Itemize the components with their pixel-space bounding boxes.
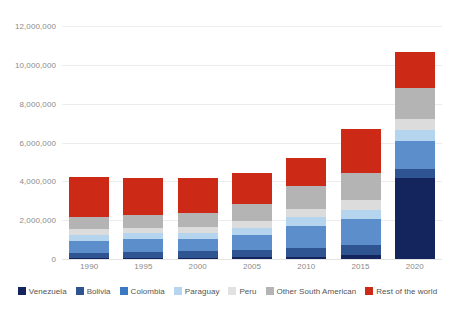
bar-segment[interactable] [69, 217, 109, 230]
bar-segment[interactable] [178, 251, 218, 258]
bar-segment[interactable] [286, 217, 326, 225]
bar-segment[interactable] [395, 178, 435, 259]
legend-swatch-icon [228, 287, 236, 295]
bar-segment[interactable] [395, 130, 435, 140]
gridline [62, 259, 442, 260]
bar-segment[interactable] [69, 177, 109, 217]
bar-segment[interactable] [232, 204, 272, 221]
bar-group[interactable] [116, 26, 170, 259]
legend-item[interactable]: Paraguay [174, 287, 220, 296]
bar-segment[interactable] [395, 141, 435, 169]
bar-segment[interactable] [123, 239, 163, 252]
bar-segment[interactable] [341, 255, 381, 259]
legend-item[interactable]: Other South American [266, 287, 357, 296]
legend-swatch-icon [266, 287, 274, 295]
legend-swatch-icon [120, 287, 128, 295]
x-axis: 1990199520002005201020152020 [62, 262, 442, 278]
x-axis-tick-label: 2020 [388, 262, 442, 278]
bar-segment[interactable] [232, 173, 272, 204]
legend-swatch-icon [365, 287, 373, 295]
y-axis-tick-label: 2,000,000 [20, 216, 57, 225]
bar-group[interactable] [388, 26, 442, 259]
bar-segment[interactable] [69, 258, 109, 259]
x-axis-tick-label: 2015 [334, 262, 388, 278]
bar-group[interactable] [334, 26, 388, 259]
bar-segment[interactable] [232, 257, 272, 259]
legend-item[interactable]: Venezuela [18, 287, 67, 296]
x-axis-tick-label: 2005 [225, 262, 279, 278]
y-axis-tick-label: 4,000,000 [20, 177, 57, 186]
legend-swatch-icon [76, 287, 84, 295]
bar-segment[interactable] [178, 239, 218, 251]
legend-item[interactable]: Rest of the world [365, 287, 437, 296]
bar-group[interactable] [171, 26, 225, 259]
bar-stack[interactable] [178, 178, 218, 259]
bar-group[interactable] [225, 26, 279, 259]
bar-segment[interactable] [341, 129, 381, 172]
bar-stack[interactable] [232, 173, 272, 259]
y-axis-tick-label: 10,000,000 [15, 60, 56, 69]
bar-segment[interactable] [395, 169, 435, 178]
bar-segment[interactable] [341, 173, 381, 201]
legend-item[interactable]: Peru [228, 287, 256, 296]
bar-segment[interactable] [341, 210, 381, 219]
x-axis-tick-label: 2010 [279, 262, 333, 278]
bar-segment[interactable] [69, 241, 109, 253]
x-axis-tick-label: 2000 [171, 262, 225, 278]
bar-segment[interactable] [123, 258, 163, 259]
bar-stack[interactable] [395, 52, 435, 259]
bar-segment[interactable] [232, 228, 272, 235]
legend-swatch-icon [174, 287, 182, 295]
bar-segment[interactable] [178, 213, 218, 227]
chart-legend: VenezuelaBoliviaColombiaParaguayPeruOthe… [0, 284, 455, 298]
bar-segment[interactable] [286, 186, 326, 209]
y-axis: 02,000,0004,000,0006,000,0008,000,00010,… [0, 26, 56, 259]
legend-item[interactable]: Colombia [120, 287, 165, 296]
bar-segment[interactable] [341, 245, 381, 255]
legend-label: Other South American [277, 287, 357, 296]
stacked-bar-chart: 02,000,0004,000,0006,000,0008,000,00010,… [0, 0, 455, 310]
legend-label: Peru [239, 287, 256, 296]
bar-segment[interactable] [286, 209, 326, 218]
legend-label: Colombia [131, 287, 165, 296]
legend-swatch-icon [18, 287, 26, 295]
bar-segment[interactable] [286, 248, 326, 256]
bar-segment[interactable] [232, 221, 272, 228]
bars-layer [62, 26, 442, 259]
legend-label: Venezuela [29, 287, 67, 296]
bar-segment[interactable] [341, 219, 381, 245]
bar-stack[interactable] [286, 158, 326, 259]
legend-label: Paraguay [185, 287, 220, 296]
y-axis-tick-label: 12,000,000 [15, 22, 56, 31]
bar-segment[interactable] [395, 119, 435, 130]
bar-segment[interactable] [286, 257, 326, 259]
bar-segment[interactable] [178, 258, 218, 259]
y-axis-tick-label: 6,000,000 [20, 138, 57, 147]
bar-stack[interactable] [123, 178, 163, 259]
bar-segment[interactable] [232, 235, 272, 250]
bar-segment[interactable] [123, 178, 163, 215]
x-axis-tick-label: 1995 [116, 262, 170, 278]
x-axis-tick-label: 1990 [62, 262, 116, 278]
bar-segment[interactable] [232, 250, 272, 258]
bar-group[interactable] [279, 26, 333, 259]
bar-segment[interactable] [341, 200, 381, 210]
bar-segment[interactable] [178, 178, 218, 213]
y-axis-tick-label: 8,000,000 [20, 99, 57, 108]
bar-stack[interactable] [341, 129, 381, 259]
legend-label: Rest of the world [376, 287, 437, 296]
bar-segment[interactable] [123, 215, 163, 228]
bar-group[interactable] [62, 26, 116, 259]
bar-stack[interactable] [69, 177, 109, 259]
bar-segment[interactable] [395, 52, 435, 87]
bar-segment[interactable] [286, 158, 326, 186]
bar-segment[interactable] [286, 226, 326, 249]
legend-label: Bolivia [87, 287, 111, 296]
legend-item[interactable]: Bolivia [76, 287, 111, 296]
y-axis-tick-label: 0 [51, 255, 56, 264]
bar-segment[interactable] [395, 88, 435, 119]
